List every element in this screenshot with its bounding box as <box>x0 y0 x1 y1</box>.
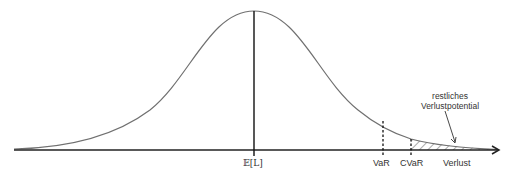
loss-distribution-diagram: 𝔼[L] VaR CVaR Verlust restliches Verlust… <box>0 0 510 179</box>
annotation-arrow <box>445 111 455 142</box>
x-axis-label: Verlust <box>443 158 471 168</box>
note-line-1: restliches <box>400 91 500 101</box>
var-label: VaR <box>373 158 390 168</box>
mean-label: 𝔼[L] <box>243 158 263 168</box>
density-curve <box>14 11 498 150</box>
note-line-2: Verlustpotential <box>400 101 500 111</box>
diagram-canvas <box>0 0 510 179</box>
cvar-label: CVaR <box>400 158 423 168</box>
remaining-loss-potential-note: restliches Verlustpotential <box>400 91 500 111</box>
